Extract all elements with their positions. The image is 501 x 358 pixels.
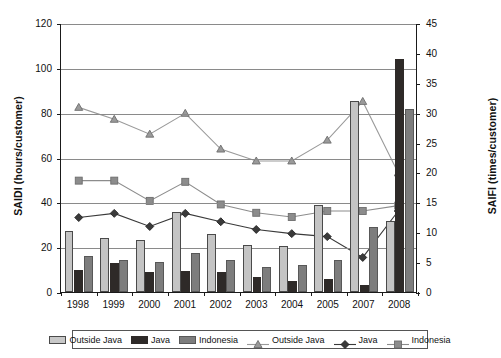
diamond-icon xyxy=(181,209,189,217)
x-axis-tick-label: 1998 xyxy=(58,300,98,310)
x-axis-tick-label: 2003 xyxy=(236,300,276,310)
bar-java xyxy=(74,270,83,292)
x-axis-tickmark xyxy=(204,292,205,296)
x-axis-tick-label: 2001 xyxy=(165,300,205,310)
square-icon xyxy=(111,177,118,184)
x-axis-tickmark xyxy=(168,292,169,296)
bar-indonesia xyxy=(298,265,307,292)
triangle-icon xyxy=(359,97,367,104)
y-axis-left-title: SAIDI (hours/customer) xyxy=(12,76,24,236)
x-axis-tick-label: 2005 xyxy=(308,300,348,310)
y-axis-left-tick-label: 20 xyxy=(26,243,52,253)
y-axis-left-tick-label: 0 xyxy=(26,288,52,298)
x-axis-tick-label: 2007 xyxy=(343,300,383,310)
square-icon xyxy=(182,178,189,185)
bar-outside xyxy=(243,245,252,292)
x-axis-tick-label: 2004 xyxy=(272,300,312,310)
triangle-icon xyxy=(75,103,83,110)
bar-indonesia xyxy=(226,260,235,293)
y-axis-left-tickmark xyxy=(57,114,61,115)
bar-outside xyxy=(172,212,181,292)
x-axis-tick-label: 2000 xyxy=(129,300,169,310)
y-axis-right-tickmark xyxy=(416,203,420,204)
gridline xyxy=(61,203,416,204)
legend-item-line[interactable]: Indonesia xyxy=(387,335,451,345)
diamond-icon xyxy=(252,225,260,233)
x-axis-tickmark xyxy=(347,292,348,296)
x-axis-tickmark xyxy=(61,292,62,296)
x-axis-tickmark xyxy=(275,292,276,296)
diamond-icon xyxy=(146,223,154,231)
bar-java xyxy=(253,277,262,292)
bar-outside xyxy=(350,101,359,292)
y-axis-left-tick-label: 40 xyxy=(26,198,52,208)
legend-label: Outside Java xyxy=(272,335,325,345)
bar-indonesia xyxy=(262,267,271,292)
legend-item-bar[interactable]: Indonesia xyxy=(179,335,238,345)
bar-java xyxy=(217,272,226,292)
square-icon xyxy=(217,201,224,208)
gridline xyxy=(61,114,416,115)
square-icon xyxy=(359,208,366,215)
legend-label: Java xyxy=(359,335,378,345)
outside-swatch-icon xyxy=(49,336,66,344)
y-axis-right-tickmark xyxy=(416,84,420,85)
x-axis-tick-label: 2008 xyxy=(379,300,419,310)
y-axis-right-tickmark xyxy=(416,233,420,234)
plot-area xyxy=(60,24,417,293)
y-axis-left-tick-label: 80 xyxy=(26,109,52,119)
y-axis-right-tickmark xyxy=(416,114,420,115)
diamond-icon xyxy=(334,335,356,344)
legend-item-line[interactable]: Java xyxy=(334,335,378,345)
legend-label: Outside Java xyxy=(69,335,122,345)
y-axis-left-tickmark xyxy=(57,24,61,25)
x-axis-tickmark xyxy=(132,292,133,296)
bar-java xyxy=(288,281,297,292)
bar-outside xyxy=(65,231,74,292)
y-axis-right-title: SAIFI (times/customer) xyxy=(486,76,498,236)
gridline xyxy=(61,69,416,70)
y-axis-right-tickmark xyxy=(416,24,420,25)
x-axis-tickmark xyxy=(382,292,383,296)
triangle-icon xyxy=(247,335,269,344)
legend-label: Indonesia xyxy=(412,335,451,345)
x-axis-tickmark xyxy=(97,292,98,296)
legend-item-bar[interactable]: Outside Java xyxy=(49,335,122,345)
bar-outside xyxy=(279,246,288,292)
legend-label: Java xyxy=(151,335,170,345)
y-axis-right-tick-label: 20 xyxy=(426,168,452,178)
bar-indonesia xyxy=(155,262,164,292)
y-axis-left-tick-label: 60 xyxy=(26,154,52,164)
bar-java xyxy=(360,285,369,292)
y-axis-right-tick-label: 15 xyxy=(426,198,452,208)
y-axis-left-tick-label: 120 xyxy=(26,19,52,29)
bar-outside xyxy=(314,205,323,292)
bar-java xyxy=(110,263,119,292)
legend-label: Indonesia xyxy=(199,335,238,345)
gridline xyxy=(61,248,416,249)
bar-outside xyxy=(136,240,145,292)
bar-indonesia xyxy=(84,256,93,292)
bar-java xyxy=(145,272,154,292)
y-axis-right-tickmark xyxy=(416,173,420,174)
y-axis-left-tickmark xyxy=(57,69,61,70)
y-axis-right-tickmark xyxy=(416,263,420,264)
bar-indonesia xyxy=(191,253,200,292)
y-axis-right-tickmark xyxy=(416,144,420,145)
y-axis-left-tickmark xyxy=(57,159,61,160)
square-icon xyxy=(387,335,409,344)
legend-item-line[interactable]: Outside Java xyxy=(247,335,325,345)
diamond-icon xyxy=(288,230,296,238)
chart-legend: Outside JavaJavaIndonesiaOutside JavaJav… xyxy=(72,330,428,349)
diamond-icon xyxy=(323,233,331,241)
triangle-icon xyxy=(146,130,154,137)
y-axis-right-tick-label: 25 xyxy=(426,139,452,149)
bar-indonesia xyxy=(334,260,343,293)
chart-figure: SAIDI (hours/customer) SAIFI (times/cust… xyxy=(0,0,501,358)
bar-indonesia xyxy=(119,260,128,293)
square-icon xyxy=(253,209,260,216)
legend-item-bar[interactable]: Java xyxy=(131,335,170,345)
bar-outside xyxy=(100,238,109,292)
y-axis-right-tick-label: 10 xyxy=(426,228,452,238)
y-axis-right-tick-label: 40 xyxy=(426,49,452,59)
